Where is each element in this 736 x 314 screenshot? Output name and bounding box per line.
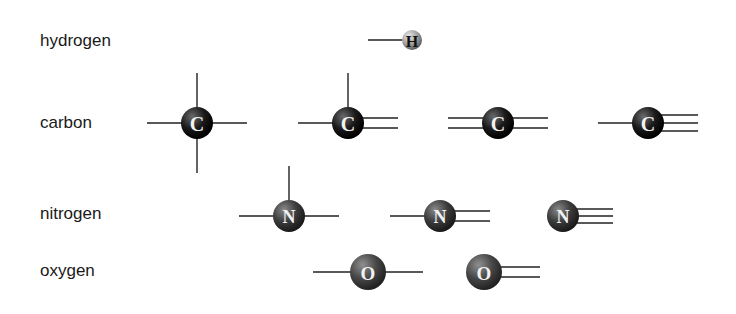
atom-symbol: H [406,33,419,50]
bonding-diagram: HCCCCNNNOO [0,0,736,314]
atom-symbol: O [361,263,376,284]
atom-symbol: C [641,113,655,135]
atom-symbol: N [283,207,296,227]
atom-symbol: C [190,113,204,135]
atom-symbol: N [434,207,447,227]
atom-symbol: C [491,113,505,135]
atom-symbol: C [341,113,355,135]
atom-symbol: N [557,207,570,227]
atom-symbol: O [477,263,492,284]
